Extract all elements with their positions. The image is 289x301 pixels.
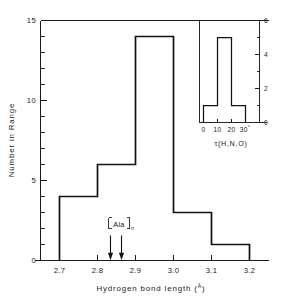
x-tick-marks xyxy=(60,255,250,261)
y-tick-label-15: 15 xyxy=(27,16,36,25)
x-tick-label-3.1: 3.1 xyxy=(206,266,218,275)
inset-y-tick-marks xyxy=(255,21,260,123)
bracket-left xyxy=(109,218,112,229)
inset-chart: 0 2 4 6 0 10 20 30° τ(H,N,O) xyxy=(200,17,269,148)
inset-y-tick-label-2: 2 xyxy=(264,85,268,92)
y-tick-marks xyxy=(41,21,47,261)
x-tick-label-3.0: 3.0 xyxy=(168,266,180,275)
bracket-right xyxy=(127,218,130,229)
inset-x-tick-label-0: 0 xyxy=(202,126,206,133)
x-axis-title-text: Hydrogen bond length ( xyxy=(97,284,198,293)
inset-x-axis-title: τ(H,N,O) xyxy=(214,139,247,148)
inset-y-tick-label-0: 0 xyxy=(264,119,268,126)
inset-x-tick-label-10: 10 xyxy=(214,126,222,133)
ala-label: Ala xyxy=(113,220,125,229)
histogram-outline xyxy=(60,37,250,261)
y-tick-label-10: 10 xyxy=(27,96,36,105)
x-axis-title: Hydrogen bond length (Å) xyxy=(97,283,206,293)
ala-arrow-2 xyxy=(119,236,124,261)
y-tick-label-5: 5 xyxy=(31,176,36,185)
x-tick-label-3.2: 3.2 xyxy=(244,266,256,275)
y-axis-title: Number in Range xyxy=(7,103,16,178)
figure-container: 0 5 10 15 2.7 2.8 2.9 3.0 3.1 3.2 xyxy=(0,0,289,301)
x-tick-label-2.9: 2.9 xyxy=(130,266,142,275)
x-tick-label-2.7: 2.7 xyxy=(54,266,66,275)
inset-histogram-outline xyxy=(204,38,246,123)
histogram-chart: 0 5 10 15 2.7 2.8 2.9 3.0 3.1 3.2 xyxy=(0,0,289,301)
x-axis-title-tail: ) xyxy=(202,284,205,293)
inset-x-tick-marks xyxy=(204,119,246,123)
inset-x-tick-label-30: 30° xyxy=(240,124,250,133)
x-tick-label-2.8: 2.8 xyxy=(92,266,104,275)
ala-arrow-1 xyxy=(108,236,113,261)
ala-subscript: n xyxy=(131,225,134,231)
inset-x-tick-label-20: 20 xyxy=(228,126,236,133)
degree-symbol: ° xyxy=(248,124,250,130)
inset-x-tick-30-value: 30 xyxy=(240,126,248,133)
ala-annotation: Ala n xyxy=(108,218,134,261)
y-tick-label-0: 0 xyxy=(31,256,36,265)
inset-y-tick-label-4: 4 xyxy=(264,51,268,58)
inset-y-tick-label-6: 6 xyxy=(264,17,268,24)
